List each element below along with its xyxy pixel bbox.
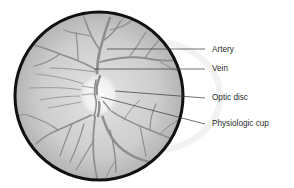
label-physiologic-cup: Physiologic cup [212, 120, 269, 128]
label-optic-disc: Optic disc [212, 94, 248, 102]
label-artery: Artery [212, 46, 234, 54]
label-vein: Vein [212, 65, 228, 73]
fundus-diagram [0, 0, 294, 188]
